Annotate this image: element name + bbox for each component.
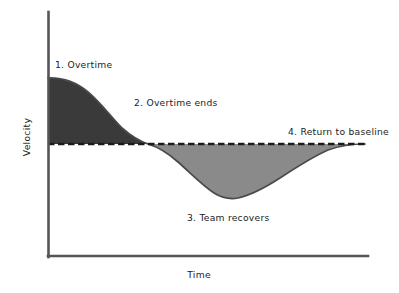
x-axis-label: Time	[186, 269, 211, 280]
y-axis-label: Velocity	[21, 118, 32, 157]
annotation-overtime: 1. Overtime	[55, 59, 112, 70]
annotation-return-to-baseline: 4. Return to baseline	[288, 126, 389, 137]
velocity-time-chart: Velocity Time 1. Overtime 2. Overtime en…	[0, 0, 399, 293]
annotation-team-recovers: 3. Team recovers	[187, 212, 269, 223]
chart-container: Velocity Time 1. Overtime 2. Overtime en…	[0, 0, 399, 293]
annotation-overtime-ends: 2. Overtime ends	[134, 97, 218, 108]
